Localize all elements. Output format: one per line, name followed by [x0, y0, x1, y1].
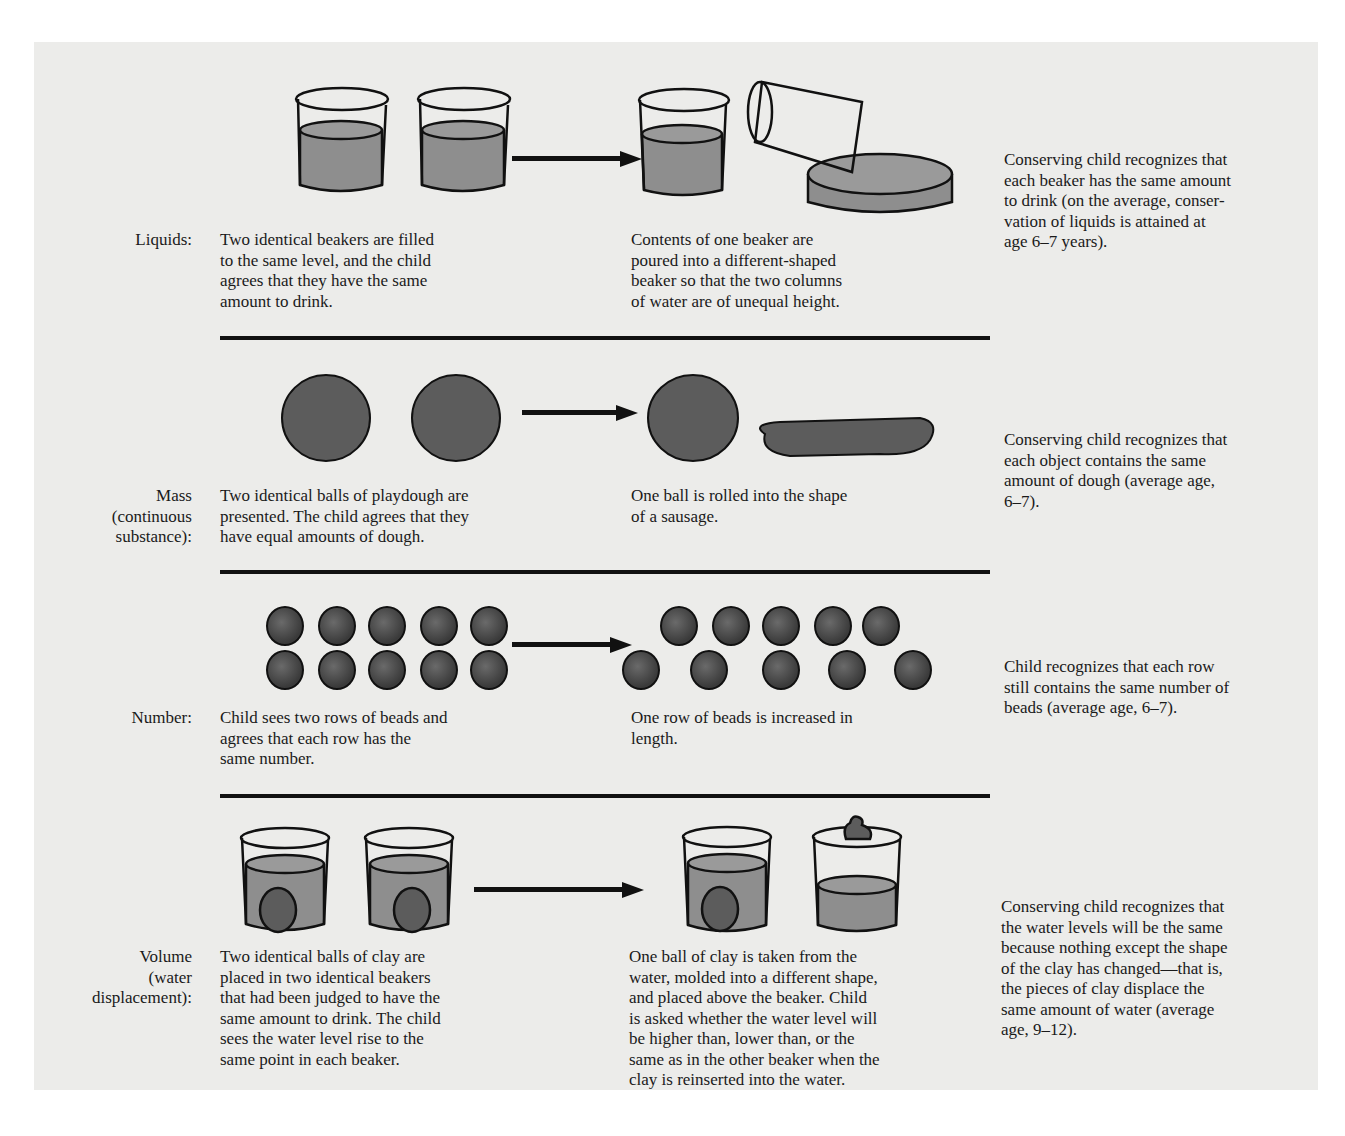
transformation-arrow — [474, 887, 624, 892]
mass-after-text: One ball is rolled into the shapeof a sa… — [631, 486, 951, 527]
transformation-arrow — [512, 156, 622, 161]
two-identical-beakers-illustration — [290, 85, 520, 195]
clay-removed-beakers-illustration — [678, 815, 908, 940]
playdough-balls-illustration — [280, 372, 940, 472]
poured-beaker-illustration — [630, 72, 960, 222]
volume-before-text: Two identical balls of clay areplaced in… — [220, 947, 540, 1070]
liquids-after-text: Contents of one beaker arepoured into a … — [631, 230, 961, 312]
liquids-before-text: Two identical beakers are filledto the s… — [220, 230, 520, 312]
number-before-text: Child sees two rows of beads andagrees t… — [220, 708, 540, 770]
arrow-head-icon — [616, 405, 638, 421]
number-after-text: One row of beads is increased inlength. — [631, 708, 951, 749]
transformation-arrow — [522, 410, 618, 415]
volume-result-text: Conserving child recognizes thatthe wate… — [1001, 897, 1301, 1041]
mass-result-text: Conserving child recognizes thateach obj… — [1004, 430, 1304, 512]
beakers-with-clay-illustration — [236, 826, 466, 936]
arrow-head-icon — [622, 882, 644, 898]
arrow-head-icon — [610, 637, 632, 653]
section-divider — [220, 794, 990, 798]
row-label-number: Number: — [100, 708, 192, 729]
row-label-liquids: Liquids: — [100, 230, 192, 251]
liquids-result-text: Conserving child recognizes thateach bea… — [1004, 150, 1304, 253]
row-label-volume: Volume(waterdisplacement): — [60, 947, 192, 1009]
mass-before-text: Two identical balls of playdough arepres… — [220, 486, 540, 548]
row-label-mass: Mass(continuoussubstance): — [60, 486, 192, 548]
volume-after-text: One ball of clay is taken from thewater,… — [629, 947, 969, 1091]
section-divider — [220, 570, 990, 574]
number-result-text: Child recognizes that each rowstill cont… — [1004, 657, 1304, 719]
transformation-arrow — [512, 642, 612, 647]
section-divider — [220, 336, 990, 340]
